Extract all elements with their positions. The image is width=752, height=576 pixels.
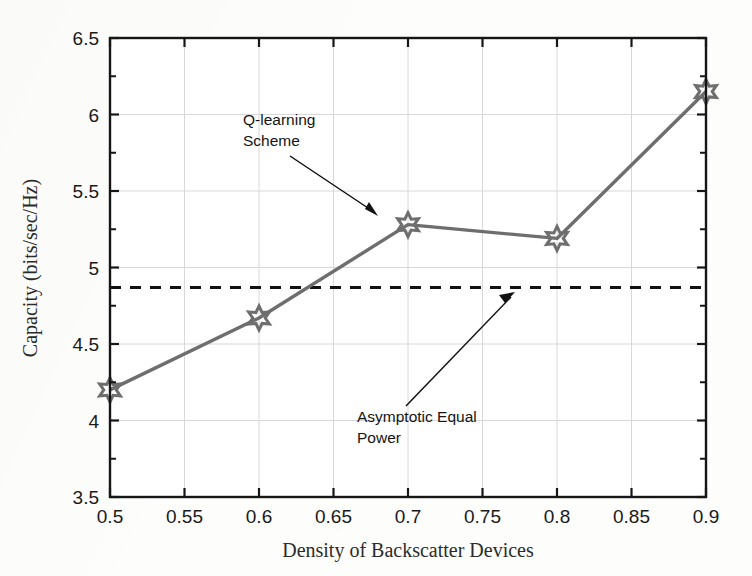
asymptotic-annotation-line-1: Asymptotic Equal [357,408,477,425]
y-tick-label: 4 [88,411,99,432]
x-tick-label: 0.6 [246,506,272,527]
x-tick-label: 0.65 [315,506,352,527]
y-tick-label: 6.5 [73,28,99,49]
y-tick-label: 3.5 [73,487,99,508]
x-tick-label: 0.8 [544,506,570,527]
y-tick-label: 5 [88,258,99,279]
q-learning-annotation-line-2: Scheme [243,132,300,149]
y-tick-label: 4.5 [73,334,99,355]
capacity-vs-density-line-chart: 0.50.550.60.650.70.750.80.850.9 3.544.55… [0,0,752,576]
x-axis-title: Density of Backscatter Devices [282,539,534,562]
y-tick-label: 5.5 [73,181,99,202]
asymptotic-annotation-line-2: Power [357,429,401,446]
y-axis-tick-labels: 3.544.555.566.5 [73,28,100,508]
x-tick-label: 0.75 [464,506,501,527]
x-tick-label: 0.85 [613,506,650,527]
x-tick-label: 0.5 [97,506,123,527]
x-tick-label: 0.7 [395,506,421,527]
x-tick-label: 0.55 [166,506,203,527]
x-axis-tick-labels: 0.50.550.60.650.70.750.80.850.9 [97,506,719,527]
q-learning-annotation-line-1: Q-learning [243,111,315,128]
y-axis-title: Capacity (bits/sec/Hz) [19,179,42,357]
x-tick-label: 0.9 [693,506,719,527]
chart-page: 0.50.550.60.650.70.750.80.850.9 3.544.55… [0,0,752,576]
y-tick-label: 6 [88,105,99,126]
